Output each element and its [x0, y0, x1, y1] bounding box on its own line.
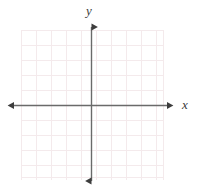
coordinate-grid-figure: y x — [0, 0, 198, 191]
y-axis-label: y — [86, 4, 92, 17]
x-axis-label: x — [182, 98, 188, 111]
coordinate-plane-svg — [0, 0, 198, 191]
